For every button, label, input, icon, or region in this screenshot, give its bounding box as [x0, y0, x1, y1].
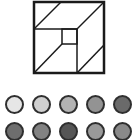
cube-diagram: [0, 0, 135, 80]
diagram-line: [77, 2, 104, 29]
gray-swatch-row1-1: [5, 95, 24, 114]
gray-swatch-row1-3: [59, 95, 78, 114]
gray-swatch-row1-5: [113, 95, 132, 114]
diagram-line: [77, 45, 104, 73]
inner-square: [62, 29, 77, 44]
gray-swatch-row2-4: [86, 122, 105, 140]
gray-swatch-row1-4: [86, 95, 105, 114]
diagram-lines: [34, 2, 104, 73]
gray-swatch-row2-1: [5, 122, 24, 140]
gray-swatch-row1-2: [32, 95, 51, 114]
diagram-line: [34, 44, 62, 73]
gray-swatch-row2-5: [113, 122, 132, 140]
diagram-line: [34, 2, 61, 29]
gray-swatch-row2-3: [59, 122, 78, 140]
gray-swatch-row2-2: [32, 122, 51, 140]
